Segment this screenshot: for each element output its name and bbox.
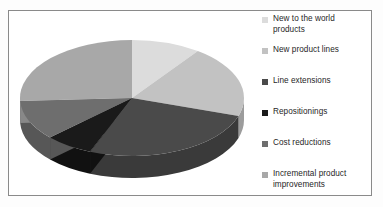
figure-container: New to the world productsNew product lin…: [0, 0, 383, 207]
legend-item-label: Incremental product improvements: [273, 169, 346, 190]
legend-swatch-line-extensions: [262, 79, 268, 85]
legend-item-label: Repositionings: [273, 107, 327, 118]
pie-chart: [14, 20, 254, 185]
legend-item[interactable]: Line extensions: [262, 76, 331, 87]
legend-item-label: New to the world products: [273, 14, 335, 35]
legend-item[interactable]: New product lines: [262, 45, 339, 56]
legend-item[interactable]: Repositionings: [262, 107, 327, 118]
legend-swatch-incremental-product-improvements: [262, 172, 268, 178]
chart-legend: New to the world productsNew product lin…: [262, 14, 374, 196]
legend-swatch-new-product-lines: [262, 48, 268, 54]
legend-swatch-cost-reductions: [262, 141, 268, 147]
legend-item-label: New product lines: [273, 45, 339, 56]
pie-slice-tops: [20, 40, 244, 156]
legend-item[interactable]: Incremental product improvements: [262, 169, 346, 190]
legend-item[interactable]: Cost reductions: [262, 138, 331, 149]
legend-swatch-repositionings: [262, 110, 268, 116]
legend-swatch-new-to-the-world-products: [262, 17, 268, 23]
legend-item[interactable]: New to the world products: [262, 14, 335, 35]
legend-item-label: Line extensions: [273, 76, 331, 87]
pie-chart-svg: [14, 20, 254, 185]
pie-slice-incremental-product-improvements[interactable]: [20, 40, 132, 101]
legend-item-label: Cost reductions: [273, 138, 331, 149]
